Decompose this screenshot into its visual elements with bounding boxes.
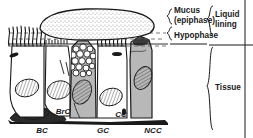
brace-mucus bbox=[167, 9, 172, 24]
epithelium-diagram: Mucus (epiphase) Hypophase Liquid lining… bbox=[0, 0, 253, 138]
particle-right bbox=[112, 52, 122, 56]
goblet-cell-granules bbox=[69, 44, 96, 77]
label-liquid-line2: lining bbox=[215, 20, 237, 29]
tissue-group bbox=[8, 36, 168, 125]
label-cell-bc: BC bbox=[36, 126, 48, 135]
mucus-epiphase-blob bbox=[40, 9, 154, 40]
label-cell-ncc: NCC bbox=[144, 126, 162, 135]
label-cell-gc: GC bbox=[97, 126, 109, 135]
brace-hypophase bbox=[167, 27, 172, 40]
ciliated-cell-body bbox=[97, 46, 127, 118]
label-hypophase: Hypophase bbox=[174, 31, 219, 40]
brace-tissue bbox=[207, 47, 213, 130]
microvilli-border bbox=[46, 39, 67, 44]
label-mucus-line1: Mucus bbox=[174, 6, 200, 15]
label-tissue: Tissue bbox=[215, 83, 241, 92]
label-cell-cc: CC bbox=[115, 110, 127, 119]
label-cell-brc: BrC bbox=[56, 107, 71, 116]
label-liquid-line1: Liquid bbox=[215, 10, 240, 19]
figure-canvas: Mucus (epiphase) Hypophase Liquid lining… bbox=[0, 0, 253, 138]
label-mucus-line2: (epiphase) bbox=[174, 16, 215, 25]
